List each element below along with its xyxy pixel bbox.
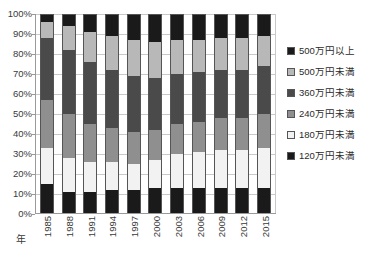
bar-segment bbox=[40, 100, 54, 148]
bar-segment bbox=[235, 150, 249, 188]
x-axis-tick: 1997 bbox=[127, 215, 141, 245]
x-axis-title: 年 bbox=[16, 231, 26, 246]
y-axis-tick-label: 60% bbox=[0, 89, 32, 99]
bar-1985 bbox=[40, 14, 54, 214]
y-axis-tick-label: 0% bbox=[0, 209, 32, 219]
bar-2009 bbox=[214, 14, 228, 214]
bar-segment bbox=[127, 40, 141, 76]
bar-2006 bbox=[192, 14, 206, 214]
bar-segment bbox=[62, 192, 76, 214]
bar-segment bbox=[40, 184, 54, 214]
bar-segment bbox=[105, 128, 119, 162]
legend-swatch bbox=[287, 110, 295, 118]
bar-segment bbox=[214, 118, 228, 150]
bar-segment bbox=[214, 70, 228, 118]
legend-item: 500万円以上 bbox=[287, 40, 373, 61]
bar-segment bbox=[62, 50, 76, 114]
bar-segment bbox=[170, 154, 184, 188]
bar-segment bbox=[257, 14, 271, 36]
stacked-bar-chart: 100%90%80%70%60%50%40%30%20%10%0% 198519… bbox=[0, 0, 373, 258]
y-axis-tick-label: 20% bbox=[0, 169, 32, 179]
bar-segment bbox=[192, 72, 206, 122]
bar-2003 bbox=[170, 14, 184, 214]
x-axis-tick: 1988 bbox=[62, 215, 76, 245]
legend-label: 500万円以上 bbox=[299, 46, 355, 56]
bar-segment bbox=[83, 32, 97, 62]
x-axis-tick-label: 1997 bbox=[129, 216, 140, 237]
bar-segment bbox=[235, 188, 249, 214]
x-axis-tick-label: 2012 bbox=[238, 216, 249, 237]
bar-segment bbox=[257, 36, 271, 66]
bar-1994 bbox=[105, 14, 119, 214]
bar-segment bbox=[105, 190, 119, 214]
x-axis-tick-label: 2003 bbox=[172, 216, 183, 237]
bar-1988 bbox=[62, 14, 76, 214]
y-axis-tick-label: 70% bbox=[0, 69, 32, 79]
bar-segment bbox=[148, 42, 162, 78]
bar-segment bbox=[148, 78, 162, 130]
bar-segment bbox=[192, 152, 206, 188]
bar-segment bbox=[214, 14, 228, 38]
bar-segment bbox=[192, 40, 206, 72]
legend-label: 120万円未満 bbox=[299, 151, 355, 161]
bar-segment bbox=[148, 130, 162, 160]
bar-segment bbox=[192, 188, 206, 214]
legend: 500万円以上500万円未満360万円未満240万円未満180万円未満120万円… bbox=[287, 40, 373, 166]
bar-segment bbox=[170, 14, 184, 40]
y-axis-tick-label: 80% bbox=[0, 49, 32, 59]
y-axis-tick-label: 10% bbox=[0, 189, 32, 199]
x-axis-tick: 1991 bbox=[84, 215, 98, 245]
bar-2000 bbox=[148, 14, 162, 214]
bar-segment bbox=[127, 190, 141, 214]
bar-segment bbox=[105, 14, 119, 36]
bar-segment bbox=[148, 160, 162, 188]
x-axis-tick-label: 1991 bbox=[85, 216, 96, 237]
legend-item: 180万円未満 bbox=[287, 124, 373, 145]
bar-segment bbox=[83, 62, 97, 124]
bar-segment bbox=[127, 132, 141, 164]
bar-segment bbox=[235, 14, 249, 38]
bar-segment bbox=[192, 122, 206, 152]
x-axis-tick: 1985 bbox=[40, 215, 54, 245]
y-axis-tick-mark bbox=[31, 214, 35, 215]
x-axis: 1985198819911994199720002003200620092012… bbox=[36, 215, 276, 245]
bar-2012 bbox=[235, 14, 249, 214]
legend-label: 500万円未満 bbox=[299, 67, 355, 77]
y-axis-tick-label: 100% bbox=[0, 9, 32, 19]
x-axis-tick: 1994 bbox=[105, 215, 119, 245]
bar-segment bbox=[105, 36, 119, 70]
legend-swatch bbox=[287, 131, 295, 139]
x-axis-tick-label: 1994 bbox=[107, 216, 118, 237]
legend-item: 360万円未満 bbox=[287, 82, 373, 103]
x-axis-tick-label: 2000 bbox=[150, 216, 161, 237]
y-axis-tick-label: 30% bbox=[0, 149, 32, 159]
bar-segment bbox=[62, 114, 76, 158]
legend-item: 500万円未満 bbox=[287, 61, 373, 82]
bar-segment bbox=[62, 14, 76, 26]
x-axis-tick-label: 2015 bbox=[260, 216, 271, 237]
legend-swatch bbox=[287, 47, 295, 55]
legend-swatch bbox=[287, 152, 295, 160]
bar-segment bbox=[83, 162, 97, 192]
bar-segment bbox=[192, 14, 206, 40]
legend-item: 120万円未満 bbox=[287, 145, 373, 166]
x-axis-tick: 2003 bbox=[171, 215, 185, 245]
bar-segment bbox=[148, 14, 162, 42]
bar-segment bbox=[214, 38, 228, 70]
bar-segment bbox=[170, 188, 184, 214]
x-axis-tick-label: 2006 bbox=[194, 216, 205, 237]
plot-area bbox=[36, 14, 276, 214]
bar-segment bbox=[40, 148, 54, 184]
legend-label: 180万円未満 bbox=[299, 130, 355, 140]
bar-segment bbox=[105, 70, 119, 128]
y-axis-tick-label: 90% bbox=[0, 29, 32, 39]
legend-label: 360万円未満 bbox=[299, 88, 355, 98]
bar-1997 bbox=[127, 14, 141, 214]
legend-label: 240万円未満 bbox=[299, 109, 355, 119]
bar-segment bbox=[127, 14, 141, 40]
bar-segment bbox=[40, 22, 54, 38]
x-axis-tick: 2012 bbox=[236, 215, 250, 245]
bar-segment bbox=[257, 114, 271, 148]
legend-item: 240万円未満 bbox=[287, 103, 373, 124]
x-axis-tick-label: 2009 bbox=[216, 216, 227, 237]
